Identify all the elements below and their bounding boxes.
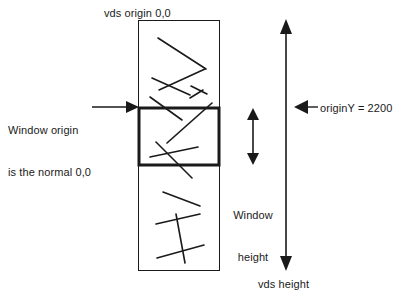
window-origin-arrow-icon xyxy=(92,101,139,113)
window-height-label: Window height xyxy=(218,180,288,292)
window-origin-label-line2: is the normal 0,0 xyxy=(8,165,91,179)
vds-height-label: vds height xyxy=(258,277,309,291)
diagram-canvas: vds origin 0,0 Window origin is the norm… xyxy=(0,0,401,299)
vds-origin-label: vds origin 0,0 xyxy=(104,6,171,20)
window-height-label-line2: height xyxy=(218,250,288,264)
window-origin-label: Window origin is the normal 0,0 xyxy=(8,95,91,207)
window-height-arrow-icon xyxy=(247,108,259,165)
window-origin-label-line1: Window origin xyxy=(8,123,91,137)
origin-y-arrow-icon xyxy=(294,100,318,114)
window-height-label-line1: Window xyxy=(218,208,288,222)
origin-y-label: originY = 2200 xyxy=(320,101,392,115)
